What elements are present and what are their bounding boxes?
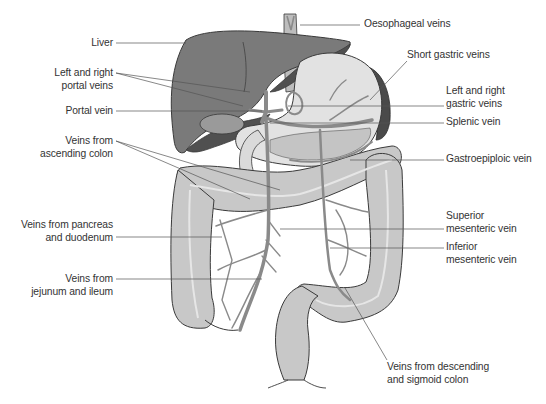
label-left-right-gastric-veins: Left and right gastric veins	[446, 85, 505, 110]
label-veins-jejunum-ileum: Veins from jejunum and ileum	[31, 273, 113, 298]
label-gastroepiploic-vein: Gastroepiploic vein	[446, 153, 532, 166]
label-superior-mesenteric-vein: Superior mesenteric vein	[446, 210, 517, 235]
label-portal-vein: Portal vein	[65, 105, 113, 118]
label-short-gastric-veins: Short gastric veins	[407, 49, 490, 62]
label-veins-pancreas-duodenum: Veins from pancreas and duodenum	[21, 219, 113, 244]
large-intestine	[171, 146, 403, 388]
label-veins-descending-sigmoid-colon: Veins from descending and sigmoid colon	[387, 361, 489, 386]
label-oesophageal-veins: Oesophageal veins	[364, 18, 450, 31]
label-splenic-vein: Splenic vein	[446, 116, 500, 129]
label-left-right-portal-veins: Left and right portal veins	[54, 67, 113, 92]
label-inferior-mesenteric-vein: Inferior mesenteric vein	[446, 241, 517, 266]
label-liver: Liver	[91, 37, 113, 50]
label-veins-ascending-colon: Veins from ascending colon	[40, 135, 113, 160]
